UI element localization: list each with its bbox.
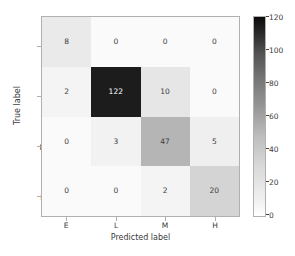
- confusion-matrix-figure: True label E L M H E L M H Predicted lab…: [0, 0, 295, 256]
- colorbar-tick-label-60: 60: [269, 112, 279, 121]
- colorbar-tick-mark-40: [266, 148, 269, 149]
- matrix-cell-H-M: 2: [141, 166, 190, 216]
- matrix-cell-H-H: 20: [190, 166, 239, 216]
- colorbar-tick-mark-100: [266, 49, 269, 50]
- colorbar-tick-label-40: 40: [269, 145, 279, 154]
- colorbar-gradient: [254, 17, 265, 216]
- x-tick-mark-3: [215, 217, 216, 221]
- matrix-cell-M-M: 47: [141, 117, 190, 167]
- x-axis-label: Predicted label: [0, 233, 281, 242]
- colorbar-tick-mark-20: [266, 181, 269, 182]
- matrix-cell-H-L: 0: [91, 166, 140, 216]
- matrix-cell-L-E: 2: [42, 67, 91, 117]
- heatmap-axes: 8 0 0 0 2 122 10 0 0 3 47 5 0 0 2 20: [41, 16, 240, 217]
- y-tick-label-0: E: [6, 43, 46, 52]
- colorbar-tick-mark-80: [266, 82, 269, 83]
- colorbar-tick-mark-60: [266, 115, 269, 116]
- colorbar-tick-mark-0: [266, 214, 269, 215]
- heatmap-grid: 8 0 0 0 2 122 10 0 0 3 47 5 0 0 2 20: [42, 17, 239, 216]
- x-tick-label-3: H: [195, 221, 235, 230]
- colorbar-tick-mark-120: [266, 16, 269, 17]
- x-tick-mark-0: [66, 217, 67, 221]
- matrix-cell-L-H: 0: [190, 67, 239, 117]
- matrix-cell-H-E: 0: [42, 166, 91, 216]
- y-tick-label-1: L: [6, 93, 46, 102]
- y-tick-label-3: H: [6, 193, 46, 202]
- colorbar-tick-label-20: 20: [269, 178, 279, 187]
- x-tick-label-2: M: [145, 221, 185, 230]
- matrix-cell-M-H: 5: [190, 117, 239, 167]
- matrix-cell-M-E: 0: [42, 117, 91, 167]
- colorbar-tick-label-120: 120: [269, 13, 283, 22]
- x-tick-label-1: L: [96, 221, 136, 230]
- colorbar-tick-label-80: 80: [269, 79, 279, 88]
- x-tick-label-0: E: [46, 221, 86, 230]
- matrix-cell-E-E: 8: [42, 17, 91, 67]
- matrix-cell-E-M: 0: [141, 17, 190, 67]
- matrix-cell-L-M: 10: [141, 67, 190, 117]
- x-tick-mark-1: [116, 217, 117, 221]
- matrix-cell-L-L: 122: [91, 67, 140, 117]
- y-tick-label-2: M: [6, 143, 46, 152]
- matrix-cell-E-H: 0: [190, 17, 239, 67]
- colorbar-tick-label-0: 0: [269, 211, 274, 220]
- colorbar: [253, 16, 266, 217]
- x-tick-mark-2: [165, 217, 166, 221]
- matrix-cell-E-L: 0: [91, 17, 140, 67]
- colorbar-tick-label-100: 100: [269, 46, 283, 55]
- matrix-cell-M-L: 3: [91, 117, 140, 167]
